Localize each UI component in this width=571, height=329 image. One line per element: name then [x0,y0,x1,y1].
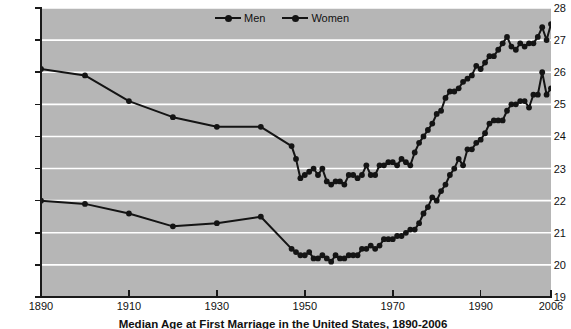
data-point [447,172,453,178]
y-tick-mark [35,7,41,9]
y-axis-line [40,7,42,298]
y-tick-mark [35,200,41,202]
y-tick-mark [35,136,41,138]
data-point [170,114,176,120]
data-point [372,172,378,178]
legend-item-men[interactable]: Men [215,13,265,24]
data-point [359,172,365,178]
data-point [416,140,422,146]
data-point [434,198,440,204]
data-point [328,259,334,265]
y-tick-label: 25 [532,99,566,109]
legend-item-women[interactable]: Women [282,13,349,24]
y-tick-mark [35,71,41,73]
data-point [451,166,457,172]
x-tick-mark [550,290,552,297]
x-tick-mark [216,290,218,297]
data-point [425,127,431,133]
x-tick-mark [392,290,394,297]
x-tick-label: 1930 [194,301,240,312]
data-point [504,108,510,114]
legend-label-men: Men [244,13,265,24]
y-tick-label: 24 [532,131,566,141]
y-tick-label: 20 [532,260,566,270]
x-tick-label: 1950 [282,301,328,312]
chart-canvas [41,8,551,297]
figure-caption: Median Age at First Marriage in the Unit… [0,318,566,329]
data-point [421,134,427,140]
data-point [214,124,220,130]
data-point [412,227,418,233]
x-tick-label: 2006 [528,301,571,312]
data-point [456,85,462,91]
x-tick-mark [40,290,42,297]
plot-area [41,8,551,297]
legend-label-women: Women [311,13,349,24]
y-tick-label: 28 [532,3,566,13]
data-point [315,172,321,178]
y-tick-label: 26 [532,67,566,77]
data-point [438,188,444,194]
data-point [355,252,361,258]
data-point [258,124,264,130]
data-point [425,204,431,210]
x-tick-label: 1890 [18,301,64,312]
y-tick-label: 23 [532,164,566,174]
data-point [482,130,488,136]
data-point [214,220,220,226]
data-point [407,162,413,168]
data-point [539,24,545,30]
data-point [258,214,264,220]
data-point [293,156,299,162]
data-point [438,108,444,114]
x-tick-mark [128,290,130,297]
y-tick-mark [35,104,41,106]
data-point [469,73,475,79]
data-point [495,47,501,53]
chart-legend: Men Women [215,9,349,27]
x-tick-mark [480,290,482,297]
data-point [478,66,484,72]
y-tick-mark [35,232,41,234]
data-point [170,223,176,229]
data-point [491,53,497,59]
data-point [319,166,325,172]
data-point [500,117,506,123]
data-point [535,92,541,98]
y-tick-mark [35,39,41,41]
data-point [82,201,88,207]
data-point [504,34,510,40]
y-tick-label: 21 [532,228,566,238]
data-point [412,150,418,156]
data-point [478,137,484,143]
data-point [311,166,317,172]
data-point [456,156,462,162]
y-tick-label: 22 [532,196,566,206]
y-tick-mark [35,264,41,266]
data-point [443,95,449,101]
data-point [548,21,551,27]
data-point [522,98,528,104]
data-point [500,40,506,46]
legend-marker-women-icon [282,13,308,23]
y-tick-mark [35,168,41,170]
data-point [341,182,347,188]
legend-marker-men-icon [215,13,241,23]
x-tick-label: 1970 [370,301,416,312]
data-point [544,92,550,98]
data-point [429,121,435,127]
data-point [126,211,132,217]
data-point [421,211,427,217]
x-tick-label: 1910 [106,301,152,312]
x-tick-mark [304,290,306,297]
data-point [306,249,312,255]
data-point [82,73,88,79]
data-point [377,243,383,249]
data-point [126,98,132,104]
data-point [482,60,488,66]
data-point [513,47,519,53]
data-point [363,162,369,168]
x-tick-label: 1990 [458,301,504,312]
series-women [41,69,551,264]
